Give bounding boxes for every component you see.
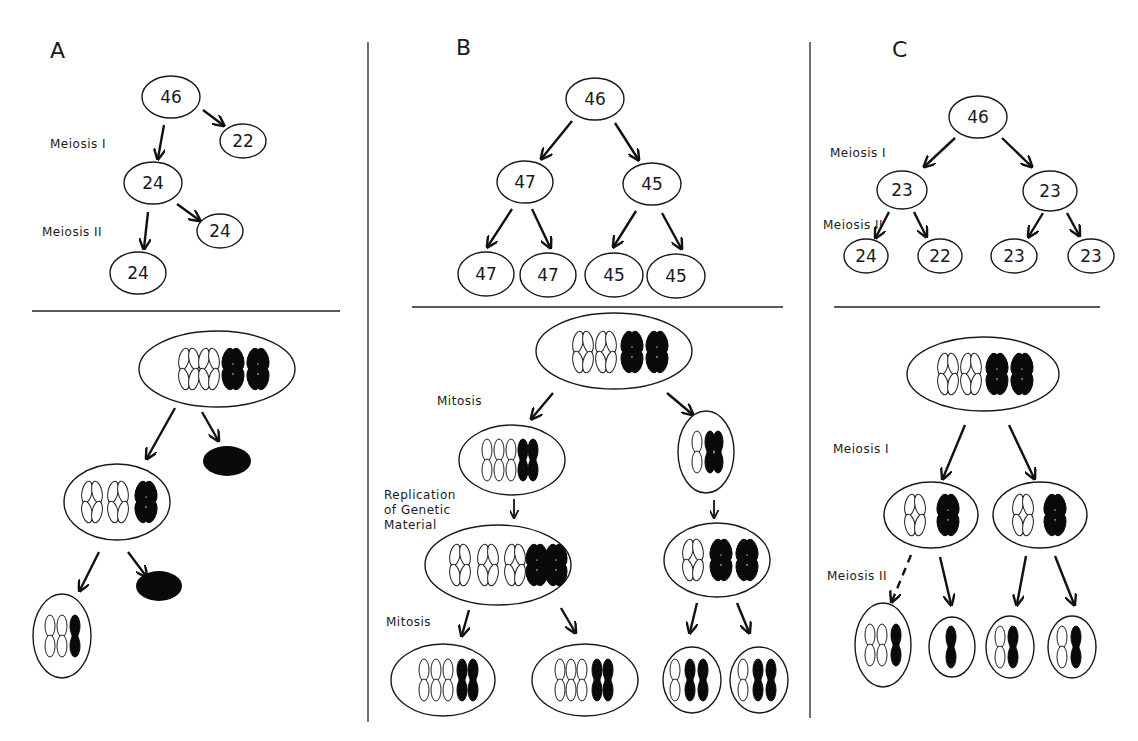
arrow-icon [737, 603, 749, 632]
arrow-icon [1029, 213, 1043, 236]
arrow-icon [177, 204, 199, 220]
count-node: 47 [458, 252, 514, 296]
count-node: 22 [220, 124, 266, 158]
cell-gamete-a [33, 594, 91, 678]
arrow-icon [615, 123, 638, 159]
cell-gamete-c3 [986, 616, 1034, 678]
arrow-icon [1067, 213, 1079, 235]
stage-label-replication-1: Replication [384, 488, 456, 502]
arrow-icon [128, 552, 146, 576]
svg-text:23: 23 [1039, 181, 1061, 201]
stage-label-replication-3: Material [384, 518, 437, 532]
svg-text:45: 45 [603, 265, 625, 285]
svg-text:46: 46 [584, 89, 606, 109]
count-node: 24 [110, 252, 166, 294]
arrow-icon [532, 393, 553, 418]
arrow-icon [662, 213, 681, 248]
arrow-icon [532, 209, 550, 247]
stage-label-meiosis2: Meiosis II [42, 225, 102, 239]
panel-b: B 46 47 45 47 47 45 45 [384, 35, 788, 716]
count-node: 23 [1068, 239, 1114, 273]
svg-text:47: 47 [537, 265, 559, 285]
polar-body [136, 571, 182, 601]
cell-parent-c [907, 337, 1059, 411]
svg-text:24: 24 [855, 246, 877, 266]
svg-text:23: 23 [1080, 246, 1102, 266]
svg-text:22: 22 [232, 131, 254, 151]
stage-label-mitosis-top: Mitosis [437, 394, 482, 408]
arrow-icon [1055, 556, 1074, 604]
arrow-icon [614, 211, 636, 246]
count-node: 46 [142, 76, 200, 118]
arrow-icon [488, 209, 512, 246]
arrow-icon [914, 212, 926, 236]
count-node: 24 [197, 214, 243, 248]
cell-daughter-b3 [663, 647, 721, 713]
count-node: 23 [991, 239, 1037, 273]
arrow-icon [80, 552, 99, 590]
cell-right-b [678, 411, 734, 493]
count-node: 24 [124, 162, 182, 204]
panel-label-a: A [50, 38, 65, 63]
arrow-icon [144, 212, 148, 248]
arrow-icon [1017, 556, 1026, 604]
arrow-icon [925, 138, 955, 166]
arrow-icon [202, 412, 218, 440]
stage-label-meiosis1: Meiosis I [50, 137, 106, 151]
stage-label-replication-2: of Genetic [384, 503, 451, 517]
stage-label-meiosis1-cells: Meiosis I [833, 442, 889, 456]
count-node: 45 [647, 254, 705, 298]
cell-left-c [884, 482, 978, 548]
count-node: 47 [497, 161, 553, 203]
arrow-icon [943, 425, 965, 478]
stage-label-meiosis1: Meiosis I [830, 146, 886, 160]
cell-secondary-a [64, 464, 170, 540]
cell-daughter-b4 [730, 647, 788, 713]
arrow-icon [892, 555, 911, 601]
svg-text:24: 24 [142, 173, 164, 193]
cell-parent-a [139, 331, 295, 407]
arrow-icon [203, 110, 223, 125]
svg-text:46: 46 [160, 87, 182, 107]
arrow-icon [462, 610, 469, 635]
svg-text:45: 45 [665, 266, 687, 286]
count-node: 45 [585, 253, 643, 297]
count-node: 46 [566, 78, 624, 120]
arrow-icon [940, 557, 951, 604]
count-node: 46 [949, 96, 1007, 138]
count-node: 24 [844, 239, 888, 273]
panel-c: C Meiosis I Meiosis II 46 23 23 24 22 23 [823, 37, 1114, 687]
panel-label-b: B [456, 35, 471, 60]
panel-a: A Meiosis I Meiosis II 46 22 24 24 24 [33, 38, 295, 678]
stage-label-meiosis2: Meiosis II [823, 218, 883, 232]
arrow-icon [158, 125, 164, 158]
panel-label-c: C [892, 37, 907, 62]
cell-daughter-b2 [532, 644, 638, 716]
stage-label-mitosis-bottom: Mitosis [386, 615, 431, 629]
svg-text:23: 23 [1003, 246, 1025, 266]
cell-parent-b [536, 313, 692, 389]
arrow-icon [561, 608, 575, 632]
count-node: 22 [918, 239, 962, 273]
cell-daughter-b1 [391, 644, 495, 716]
svg-text:47: 47 [514, 172, 536, 192]
svg-text:47: 47 [475, 264, 497, 284]
polar-body [203, 446, 251, 476]
arrow-icon [1009, 425, 1034, 478]
arrow-icon [690, 603, 697, 632]
nondisjunction-diagram: A Meiosis I Meiosis II 46 22 24 24 24 [0, 0, 1138, 741]
svg-text:46: 46 [967, 107, 989, 127]
svg-text:45: 45 [641, 174, 663, 194]
svg-text:24: 24 [127, 263, 149, 283]
cell-left-replicated-b [425, 525, 571, 605]
cell-gamete-c2 [929, 617, 975, 677]
arrow-icon [147, 408, 175, 458]
arrow-icon [1002, 138, 1031, 166]
count-node: 23 [1023, 171, 1077, 211]
arrow-icon [667, 393, 692, 414]
cell-left-b [459, 425, 565, 495]
svg-text:22: 22 [929, 246, 951, 266]
arrow-icon [542, 121, 572, 158]
cell-right-c [993, 482, 1087, 548]
count-node: 45 [623, 163, 681, 205]
